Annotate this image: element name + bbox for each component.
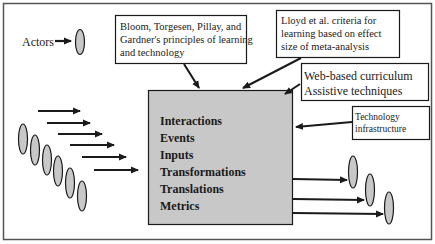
- web-line-2: Assistive techniques: [304, 84, 403, 98]
- output-arrow: [293, 179, 347, 180]
- bloom-principles-box: Bloom, Torgesen, Pillay, and Gardner's p…: [116, 16, 254, 64]
- lloyd-line-3: size of meta-analysis: [281, 41, 369, 52]
- bloom-line-3: and technology: [120, 47, 185, 58]
- actor-ellipse: [19, 124, 28, 154]
- tech-line-2: infrastructure: [355, 124, 406, 134]
- output-ellipse: [385, 192, 394, 224]
- actor-ellipse: [31, 135, 40, 165]
- bloom-line-1: Bloom, Torgesen, Pillay, and: [120, 21, 242, 32]
- actor-ellipse: [54, 156, 63, 186]
- output-ellipse: [349, 156, 358, 188]
- central-item-inputs: Inputs: [160, 148, 194, 162]
- central-item-translations: Translations: [160, 182, 224, 196]
- central-process-box: Interactions Events Inputs Transformatio…: [149, 91, 293, 225]
- technology-infrastructure-box: Technology infrastructure: [353, 107, 430, 140]
- tech-line-1: Technology: [355, 112, 400, 122]
- actor-ellipse-legend: [76, 30, 85, 55]
- output-arrow: [293, 213, 383, 214]
- bloom-line-2: Gardner's principles of learning: [120, 34, 254, 45]
- central-item-metrics: Metrics: [160, 199, 200, 213]
- output-ellipse: [366, 174, 375, 206]
- actor-ellipse: [66, 168, 75, 198]
- central-item-transformations: Transformations: [160, 165, 246, 179]
- diagram-canvas: Actors Bloom, Torgesen, Pillay, and Gard…: [0, 0, 435, 244]
- lloyd-line-2: learning based on effect: [281, 28, 381, 39]
- web-curriculum-box: Web-based curriculum Assistive technique…: [302, 64, 429, 101]
- lloyd-line-1: Lloyd et al. criteria for: [281, 15, 377, 26]
- lloyd-criteria-box: Lloyd et al. criteria for learning based…: [277, 11, 400, 58]
- central-item-events: Events: [160, 131, 195, 145]
- web-line-1: Web-based curriculum: [304, 69, 413, 83]
- central-item-interactions: Interactions: [160, 114, 222, 128]
- actor-ellipse: [78, 181, 87, 211]
- output-arrow: [293, 199, 364, 200]
- actor-ellipse: [43, 145, 52, 175]
- actors-label: Actors: [22, 35, 54, 49]
